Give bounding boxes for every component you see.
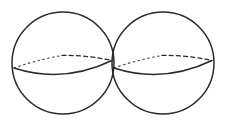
spheres-diagram xyxy=(0,0,226,123)
